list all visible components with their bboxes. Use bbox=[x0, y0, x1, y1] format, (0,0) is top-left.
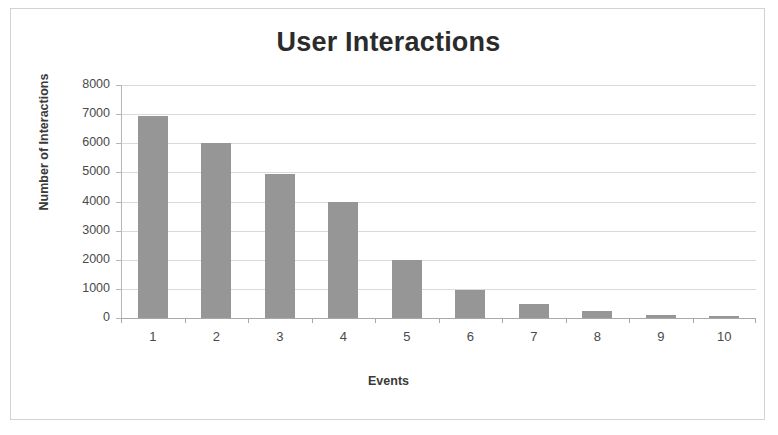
bar bbox=[646, 315, 676, 318]
x-tick-label: 5 bbox=[375, 329, 439, 344]
x-tick-label: 4 bbox=[312, 329, 376, 344]
x-tick-label: 6 bbox=[439, 329, 503, 344]
chart-title: User Interactions bbox=[11, 27, 766, 58]
y-tick-label: 1000 bbox=[50, 282, 110, 295]
x-tick-mark bbox=[248, 318, 249, 323]
bar bbox=[519, 304, 549, 318]
y-tick-label: 6000 bbox=[50, 136, 110, 149]
y-tick-label: 7000 bbox=[50, 107, 110, 120]
x-tick-label: 9 bbox=[629, 329, 693, 344]
bar-series bbox=[121, 85, 756, 318]
y-axis-title: Number of Interactions bbox=[37, 52, 51, 232]
x-tick-mark bbox=[375, 318, 376, 323]
x-tick-mark bbox=[566, 318, 567, 323]
bar bbox=[709, 316, 739, 318]
x-tick-label: 2 bbox=[185, 329, 249, 344]
x-tick-mark bbox=[185, 318, 186, 323]
x-tick-mark bbox=[121, 318, 122, 323]
y-tick-label: 4000 bbox=[50, 195, 110, 208]
x-tick-mark bbox=[693, 318, 694, 323]
x-tick-mark bbox=[439, 318, 440, 323]
chart-frame: User Interactions Number of Interactions… bbox=[10, 8, 765, 420]
bar bbox=[138, 116, 168, 318]
x-tick-mark bbox=[755, 318, 756, 323]
y-tick-label: 0 bbox=[50, 311, 110, 324]
bar bbox=[392, 260, 422, 318]
x-tick-label: 3 bbox=[248, 329, 312, 344]
x-tick-label: 7 bbox=[502, 329, 566, 344]
x-tick-label: 10 bbox=[693, 329, 757, 344]
y-tick-label: 8000 bbox=[50, 78, 110, 91]
x-tick-label: 8 bbox=[566, 329, 630, 344]
y-tick-label: 2000 bbox=[50, 253, 110, 266]
x-tick-mark bbox=[502, 318, 503, 323]
bar bbox=[201, 143, 231, 318]
x-tick-mark bbox=[312, 318, 313, 323]
x-tick-label: 1 bbox=[121, 329, 185, 344]
bar bbox=[582, 311, 612, 318]
plot-area: 800070006000500040003000200010000 123456… bbox=[121, 85, 756, 318]
x-tick-mark bbox=[629, 318, 630, 323]
bar bbox=[455, 290, 485, 318]
y-tick-label: 5000 bbox=[50, 165, 110, 178]
y-tick-label: 3000 bbox=[50, 224, 110, 237]
x-axis-title: Events bbox=[11, 374, 766, 388]
bar bbox=[265, 174, 295, 318]
bar bbox=[328, 202, 358, 319]
